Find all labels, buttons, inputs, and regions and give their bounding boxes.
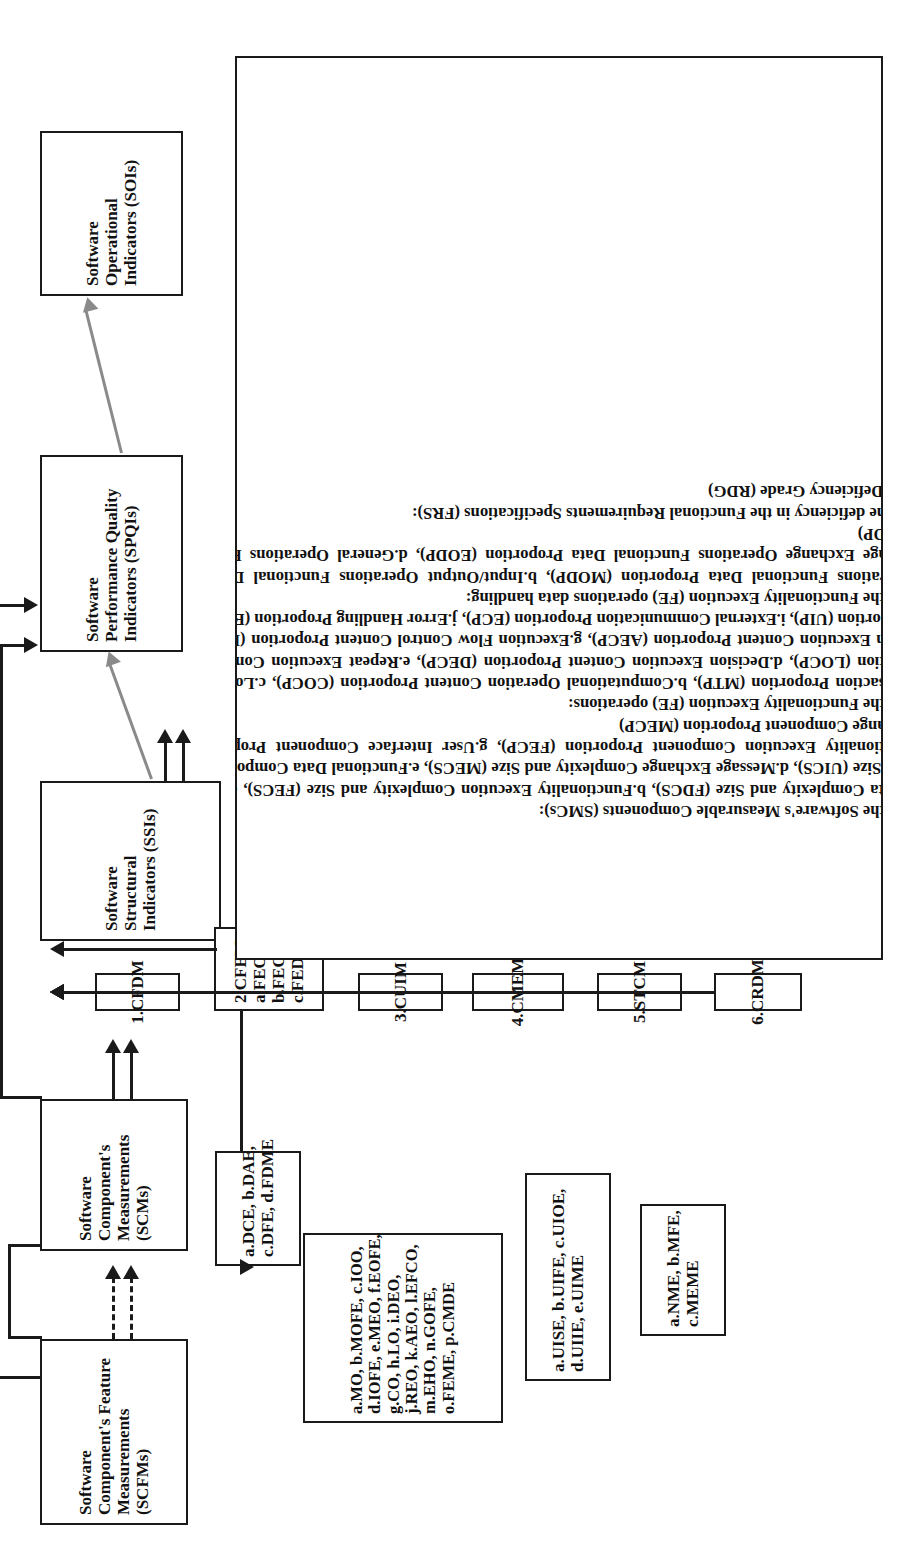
stage-box-scms: Software Component's Measurements (SCMs) [40, 1099, 188, 1251]
abbr-cfem-line-4: j.REO, k.AEO, l.EFCO, [403, 1242, 421, 1414]
stage-scfms-line-4: (SCFMs) [133, 1349, 152, 1515]
abbr-cfem-line-5: m.EHO, n.GOFE, [421, 1242, 439, 1414]
arrowhead-feed-scms-lower [123, 1039, 139, 1053]
feed-scms-upper [112, 1049, 115, 1099]
abbr-box-cuim: a.UISE, b.UIFE, c.UIOE, d.UIIE, e.UIME [525, 1173, 611, 1381]
feed-ssis-upper [164, 739, 167, 781]
stage-scms-line-2: Component's [95, 1109, 114, 1241]
connector-scms-to-spqis-drop-a [0, 644, 26, 647]
arrowhead-scfms-to-spqis-b [24, 597, 38, 613]
stage-scms-line-4: (SCMs) [133, 1109, 152, 1241]
connector-scfms-to-scms-horizontal [8, 1244, 11, 1339]
stage-scms-line-3: Measurements [114, 1109, 133, 1241]
method-box-crdm: 6.CRDM [714, 973, 802, 1011]
connector-spqis-to-sois [84, 309, 123, 453]
arrowhead-feed-scms-upper [105, 1039, 121, 1053]
abbr-cfem-line-1: a.MO, b.MOFE, c.IOO, [348, 1242, 366, 1414]
stage-ssis-line-2: Structural [121, 791, 140, 931]
stage-scms-line-1: Software [76, 1109, 95, 1241]
connector-scms-to-spqis-run-a [0, 644, 3, 1099]
arrowhead-feed-ssis-lower [175, 729, 191, 743]
arrowhead-scfms-abbr-feed [240, 1259, 254, 1275]
arrowhead-crdm-to-panel [50, 984, 64, 1000]
connector-crdm-to-panel [62, 991, 716, 994]
arrowhead-cfem-to-panel [50, 941, 64, 957]
abbr-cfem-line-3: g.CO, h.LO, i.DEO, [385, 1242, 403, 1414]
connector-scms-to-spqis-riser-a [0, 1096, 42, 1099]
abbr-cfdm-line-1: a.DCE, b.DAE, [239, 1160, 258, 1257]
stage-sois-line-2: Operational [102, 141, 121, 286]
method-box-cfem: 2.CFEM: a.FEODM b.FEOM c.FEDM [214, 927, 324, 1011]
stage-sois-line-1: Software [83, 141, 102, 286]
connector-cfem-to-panel-2 [62, 948, 217, 951]
stage-scfms-line-3: Measurements [114, 1349, 133, 1515]
feed-scfms-dashed-upper [112, 1277, 115, 1339]
abbr-cmem-line-2: c.MEME [683, 1213, 702, 1327]
abbr-box-cfem: a.MO, b.MOFE, c.IOO, d.IOFE, e.MEO, f.EO… [303, 1233, 503, 1423]
arrowhead-spqis-to-sois [80, 295, 99, 312]
abbr-cfem-line-6: o.FEME, p.CMDE [440, 1242, 458, 1414]
connector-scfms-to-spqis-riser-b [0, 1376, 42, 1379]
arrowhead-feed-ssis-upper [157, 729, 173, 743]
arrowhead-feed-scfms-lower [123, 1265, 139, 1279]
connector-cfem-abbr-to-cfem [240, 1009, 243, 1151]
feed-scms-lower [130, 1049, 133, 1099]
connector-scms-drop [8, 1244, 42, 1247]
abbr-cmem-line-1: a.NME, b.MFE, [664, 1213, 683, 1327]
stage-box-sois: Software Operational Indicators (SOIs) [40, 131, 183, 296]
connector-scfms-to-scms-vertical [8, 1336, 42, 1339]
stage-scfms-line-1: Software [76, 1349, 95, 1515]
method-crdm-label: 6.CRDM [748, 959, 767, 1025]
stage-spqis-line-2: Performance Quality [102, 465, 121, 642]
stage-spqis-line-1: Software [83, 465, 102, 642]
abbr-box-cfdm: a.DCE, b.DAE, c.DFE, d.FDME [215, 1151, 301, 1266]
abbr-cfdm-line-2: c.DFE, d.FDME [258, 1160, 277, 1257]
abbr-cuim-line-1: a.UISE, b.UIFE, c.UIOE, [549, 1182, 568, 1372]
abbr-box-cmem: a.NME, b.MFE, c.MEME [640, 1204, 726, 1336]
diagram-canvas: Software Component's Feature Measurement… [0, 0, 919, 1551]
stage-box-ssis: Software Structural Indicators (SSIs) [40, 781, 221, 941]
feed-ssis-lower [182, 739, 185, 781]
stage-scfms-line-2: Component's Feature [95, 1349, 114, 1515]
arrowhead-scms-to-spqis-a [24, 637, 38, 653]
stage-box-scfms: Software Component's Feature Measurement… [40, 1339, 188, 1525]
abbr-cfem-line-2: d.IOFE, e.MEO, f.EOFE, [366, 1242, 384, 1414]
connector-scfms-to-spqis-drop-b [0, 604, 26, 607]
stage-ssis-line-1: Software [102, 791, 121, 931]
abbr-cuim-line-2: d.UIIE, e.UIME [568, 1182, 587, 1372]
stage-box-spqis: Software Performance Quality Indicators … [40, 455, 183, 652]
stage-ssis-line-3: Indicators (SSIs) [140, 791, 159, 931]
stage-sois-line-3: Indicators (SOIs) [121, 141, 140, 286]
feed-scfms-dashed-lower [130, 1277, 133, 1339]
connector-ssis-to-spqis [108, 664, 153, 780]
arrowhead-feed-scfms-upper [105, 1265, 121, 1279]
stage-spqis-line-3: Indicators (SPQIs) [121, 465, 140, 642]
